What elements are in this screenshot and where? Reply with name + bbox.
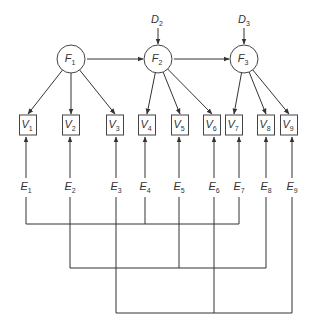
error-E7-subscript: 7 — [241, 187, 245, 194]
error-E5: E5 — [173, 180, 184, 194]
disturbance-D2-subscript: 2 — [159, 20, 163, 27]
error-E3-subscript: 3 — [118, 187, 122, 194]
disturbance-D2-letter: D — [151, 13, 159, 25]
error-E8: E8 — [260, 180, 271, 194]
factor-F2-subscript: 2 — [158, 59, 162, 66]
loading-F3-V7 — [234, 73, 242, 114]
error-E9: E9 — [286, 180, 297, 194]
loading-F3-V9 — [253, 70, 289, 114]
sem-diagram: D2D3E1E2E3E4E5E6E7E8E9F1F2F3V1V2V3V4V5V6… — [0, 0, 315, 331]
loading-F1-V3 — [80, 70, 115, 114]
error-E7: E7 — [233, 180, 244, 194]
factor-F3-subscript: 3 — [244, 59, 248, 66]
error-E9-subscript: 9 — [294, 187, 298, 194]
variable-V2-subscript: 2 — [72, 125, 76, 132]
variable-V7-subscript: 7 — [235, 125, 239, 132]
variable-V5-subscript: 5 — [181, 125, 185, 132]
loading-F3-V8 — [249, 72, 266, 114]
variable-V6-subscript: 6 — [213, 125, 217, 132]
error-E6-subscript: 6 — [216, 187, 220, 194]
error-E3: E3 — [110, 180, 121, 194]
error-E4-subscript: 4 — [147, 187, 151, 194]
error-E2-subscript: 2 — [72, 187, 76, 194]
disturbance-D3-subscript: 3 — [246, 20, 250, 27]
disturbance-D3-letter: D — [238, 13, 246, 25]
variable-V4-subscript: 4 — [148, 125, 152, 132]
loading-F2-V4 — [147, 73, 155, 114]
error-E2: E2 — [64, 180, 75, 194]
variable-V8-subscript: 8 — [267, 125, 271, 132]
error-E1-subscript: 1 — [28, 187, 32, 194]
loading-F2-V6 — [168, 69, 212, 114]
disturbance-D3: D3 — [238, 13, 250, 27]
error-E6: E6 — [208, 180, 219, 194]
error-E5-subscript: 5 — [181, 187, 185, 194]
variable-V9-subscript: 9 — [290, 125, 294, 132]
nodes-layer: D2D3E1E2E3E4E5E6E7E8E9F1F2F3V1V2V3V4V5V6… — [20, 13, 298, 194]
variable-V3-subscript: 3 — [116, 125, 120, 132]
error-E4: E4 — [139, 180, 150, 194]
factor-F1-subscript: 1 — [71, 59, 75, 66]
error-E1: E1 — [20, 180, 31, 194]
disturbance-D2: D2 — [151, 13, 163, 27]
loading-F1-V1 — [28, 70, 62, 114]
variable-V1-subscript: 1 — [29, 125, 33, 132]
error-E8-subscript: 8 — [268, 187, 272, 194]
